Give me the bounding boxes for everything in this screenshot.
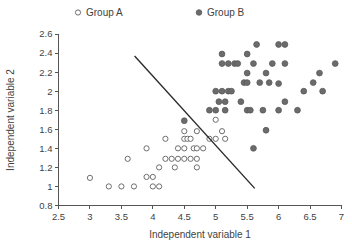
- data-point-group-a: [194, 165, 199, 170]
- data-point-group-b: [260, 107, 266, 113]
- data-point-group-b: [301, 88, 307, 94]
- x-tick-label: 7: [339, 211, 344, 222]
- x-tick-label: 5: [213, 211, 218, 222]
- x-tick-label: 6: [276, 211, 281, 222]
- data-point-group-b: [238, 99, 244, 105]
- data-point-group-a: [163, 156, 168, 161]
- y-axis-title: Independent variable 2: [5, 69, 16, 171]
- legend-marker-filled-circle-icon: [196, 10, 202, 16]
- data-point-group-b: [263, 127, 269, 133]
- x-axis-ticks: 2.533.544.555.566.57: [52, 206, 344, 222]
- data-point-group-b: [244, 51, 250, 57]
- legend-label-group-a: Group A: [86, 7, 123, 18]
- x-tick-label: 5.5: [241, 211, 254, 222]
- y-tick-label: 1.4: [39, 143, 52, 154]
- data-point-group-a: [175, 146, 180, 151]
- data-point-group-b: [251, 145, 257, 151]
- data-point-group-a: [188, 156, 193, 161]
- data-point-group-b: [276, 42, 282, 48]
- y-tick-label: 1.2: [39, 162, 52, 173]
- data-point-group-b: [263, 70, 269, 76]
- data-point-group-b: [219, 51, 225, 57]
- series-group-b-points: [181, 42, 338, 152]
- data-point-group-a: [223, 136, 228, 141]
- data-point-group-b: [207, 107, 213, 113]
- data-point-group-a: [150, 174, 155, 179]
- data-point-group-b: [269, 61, 275, 67]
- data-point-group-a: [144, 174, 149, 179]
- data-point-group-a: [163, 136, 168, 141]
- data-point-group-a: [182, 156, 187, 161]
- legend-marker-open-circle-icon: [75, 10, 80, 15]
- data-point-group-b: [235, 61, 241, 67]
- data-point-group-b: [320, 88, 326, 94]
- data-point-group-a: [106, 184, 111, 189]
- y-tick-label: 1.6: [39, 124, 52, 135]
- data-point-group-b: [282, 42, 288, 48]
- y-tick-label: 2: [47, 86, 52, 97]
- data-point-group-a: [182, 129, 187, 134]
- legend-label-group-b: Group B: [207, 7, 245, 18]
- data-point-group-a: [219, 129, 224, 134]
- data-point-group-a: [188, 136, 193, 141]
- data-point-group-b: [219, 61, 225, 67]
- data-point-group-b: [213, 107, 219, 113]
- data-point-group-a: [157, 165, 162, 170]
- x-tick-label: 2.5: [52, 211, 65, 222]
- y-tick-label: 0.8: [39, 200, 52, 211]
- data-point-group-b: [216, 99, 222, 105]
- data-point-group-a: [150, 184, 155, 189]
- y-tick-label: 2.2: [39, 67, 52, 78]
- data-point-group-b: [247, 107, 253, 113]
- data-point-group-a: [144, 146, 149, 151]
- y-tick-label: 2.6: [39, 28, 52, 39]
- data-point-group-b: [222, 99, 228, 105]
- data-point-group-b: [213, 88, 219, 94]
- legend: Group A Group B: [75, 7, 244, 18]
- data-point-group-b: [219, 88, 225, 94]
- data-point-group-a: [175, 156, 180, 161]
- plot-canvas: Group A Group B 0.811.21.41.61.822.22.42…: [0, 0, 352, 248]
- data-point-group-a: [169, 156, 174, 161]
- data-point-group-a: [213, 136, 218, 141]
- x-tick-label: 6.5: [303, 211, 316, 222]
- data-point-group-b: [229, 88, 235, 94]
- data-point-group-a: [131, 184, 136, 189]
- x-tick-label: 4: [150, 211, 155, 222]
- data-point-group-b: [282, 61, 288, 67]
- x-tick-label: 4.5: [178, 211, 191, 222]
- x-tick-label: 3: [87, 211, 92, 222]
- data-point-group-a: [87, 175, 92, 180]
- axes: [59, 34, 342, 206]
- data-point-group-b: [251, 61, 257, 67]
- data-point-group-a: [119, 184, 124, 189]
- y-axis-ticks: 0.811.21.41.61.822.22.42.6: [39, 28, 58, 211]
- data-point-group-b: [332, 61, 338, 67]
- legend-entry-group-b: Group B: [196, 7, 244, 18]
- y-tick-label: 2.4: [39, 47, 52, 58]
- data-point-group-b: [295, 107, 301, 113]
- data-point-group-a: [172, 165, 177, 170]
- data-point-group-b: [276, 81, 282, 87]
- legend-entry-group-a: Group A: [75, 7, 123, 18]
- series-group-a-points: [87, 117, 227, 189]
- y-tick-label: 1.8: [39, 105, 52, 116]
- data-point-group-a: [125, 156, 130, 161]
- data-point-group-b: [310, 80, 316, 86]
- x-axis-title: Independent variable 1: [149, 229, 251, 240]
- data-point-group-a: [194, 129, 199, 134]
- data-point-group-a: [157, 184, 162, 189]
- data-point-group-b: [282, 99, 288, 105]
- data-point-group-b: [266, 80, 272, 86]
- data-point-group-a: [201, 146, 206, 151]
- y-tick-label: 1: [47, 181, 52, 192]
- data-point-group-b: [244, 80, 250, 86]
- data-point-group-b: [317, 70, 323, 76]
- data-point-group-a: [182, 146, 187, 151]
- data-point-group-b: [276, 107, 282, 113]
- data-point-group-b: [181, 118, 187, 124]
- data-point-group-a: [213, 117, 218, 122]
- x-tick-label: 3.5: [115, 211, 128, 222]
- data-point-group-b: [257, 80, 263, 86]
- data-point-group-b: [222, 107, 228, 113]
